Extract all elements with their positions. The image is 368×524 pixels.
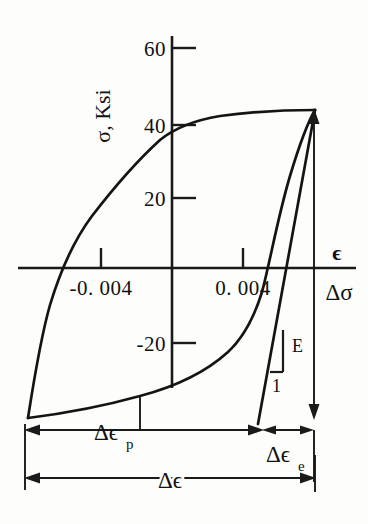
- delta-sigma-label: Δσ: [325, 280, 353, 305]
- y-axis-title: σ, Ksi: [90, 89, 115, 142]
- delta-eps-e-label-main: Δϵ: [266, 442, 290, 467]
- delta-eps-p-arrowhead-right: [248, 425, 264, 436]
- delta-eps-p-label-main: Δϵ: [94, 420, 118, 445]
- unit-slope-label-1: 1: [272, 376, 281, 396]
- stress-strain-figure: 60 40 20 -20 -0. 004 0. 004 σ, Ksi ϵ Δσ: [0, 0, 368, 524]
- delta-eps-total-label: Δϵ: [158, 468, 182, 493]
- y-tick-label-20: 20: [144, 187, 166, 211]
- delta-eps-p-label-sub: p: [126, 436, 134, 452]
- delta-eps-e-arrowhead-left: [262, 426, 276, 435]
- axis-group: [18, 36, 356, 388]
- delta-sigma-arrowhead-bottom: [309, 404, 320, 420]
- delta-eps-total-arrowhead-left: [24, 473, 40, 484]
- delta-eps-e-arrowhead-right: [300, 426, 314, 435]
- delta-eps-e-label-sub: e: [298, 458, 305, 474]
- delta-eps-p-dimension: Δϵ p: [24, 396, 264, 452]
- y-tick-label-40: 40: [144, 114, 166, 138]
- slope-triangle: E 1: [270, 330, 303, 396]
- delta-eps-e-label: Δϵ e: [266, 442, 305, 474]
- delta-eps-p-label: Δϵ p: [94, 420, 134, 452]
- x-axis-title: ϵ: [332, 240, 341, 265]
- y-tick-label-60: 60: [144, 37, 166, 61]
- delta-eps-e-dimension: Δϵ e: [262, 426, 314, 483]
- delta-eps-p-arrowhead-left: [24, 425, 40, 436]
- y-tick-group: [172, 48, 196, 343]
- delta-sigma-dimension: Δσ: [309, 108, 354, 420]
- x-tick-label-minus-0004: -0. 004: [70, 276, 133, 300]
- hysteresis-loop-plot: 60 40 20 -20 -0. 004 0. 004 σ, Ksi ϵ Δσ: [0, 0, 368, 524]
- y-tick-label-minus-20: -20: [137, 332, 167, 356]
- modulus-label-E: E: [292, 336, 303, 356]
